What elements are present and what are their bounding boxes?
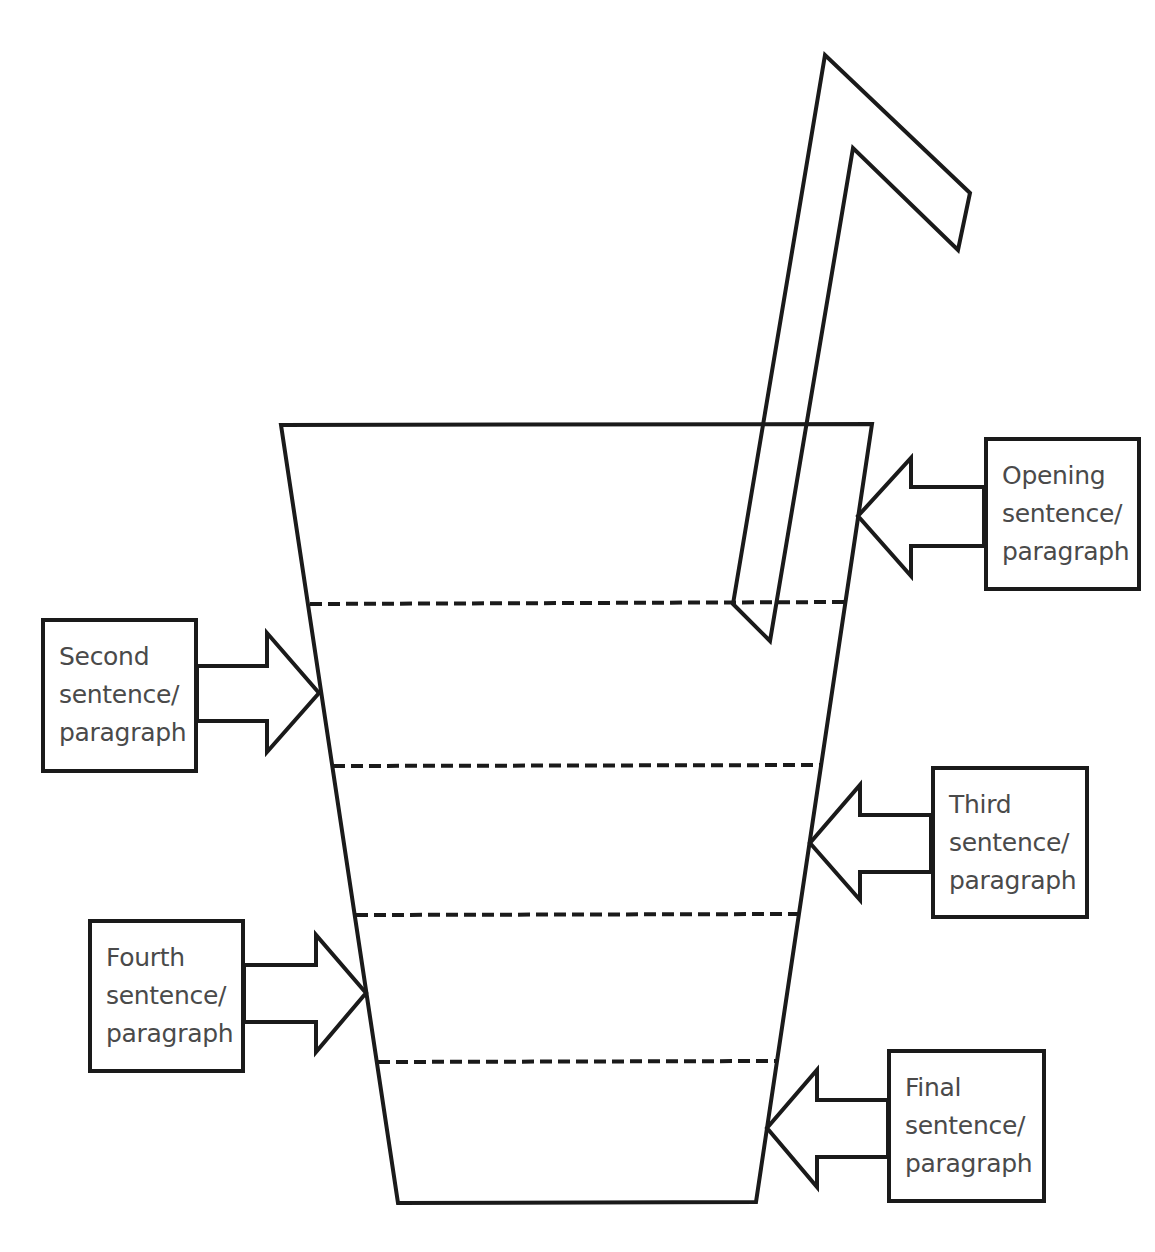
label-opening-line1: Opening [1002, 457, 1127, 495]
label-fourth-line2: sentence/ [106, 977, 231, 1015]
label-second-line1: Second [59, 638, 184, 676]
label-final-line3: paragraph [905, 1145, 1032, 1183]
label-second-line3: paragraph [59, 714, 184, 752]
section-divider-2 [333, 765, 821, 766]
label-fourth-line1: Fourth [106, 939, 231, 977]
arrow-second-icon [197, 633, 319, 752]
arrow-third-icon [810, 785, 931, 900]
label-fourth-line3: paragraph [106, 1015, 231, 1053]
label-third-line2: sentence/ [949, 824, 1075, 862]
label-third: Third sentence/ paragraph [931, 766, 1089, 919]
label-fourth: Fourth sentence/ paragraph [88, 919, 245, 1073]
label-opening: Opening sentence/ paragraph [984, 437, 1141, 591]
arrow-fourth-icon [244, 935, 366, 1052]
cup-outline [281, 424, 872, 1203]
label-opening-line2: sentence/ [1002, 495, 1127, 533]
label-opening-line3: paragraph [1002, 533, 1127, 571]
label-final-line2: sentence/ [905, 1107, 1032, 1145]
label-final-line1: Final [905, 1069, 1032, 1107]
arrow-final-icon [767, 1070, 888, 1187]
arrow-opening-icon [858, 458, 984, 576]
label-final: Final sentence/ paragraph [887, 1049, 1046, 1203]
label-second-line2: sentence/ [59, 676, 184, 714]
label-third-line1: Third [949, 786, 1075, 824]
label-third-line3: paragraph [949, 862, 1075, 900]
label-second: Second sentence/ paragraph [41, 618, 198, 773]
